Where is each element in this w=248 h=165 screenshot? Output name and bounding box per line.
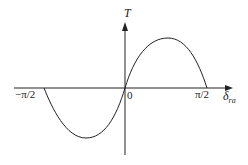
tick-right-label: π/2: [195, 89, 209, 100]
y-axis-label: T: [124, 7, 131, 19]
origin-label: 0: [127, 90, 133, 101]
y-axis-arrow-icon: [122, 22, 128, 31]
torque-angle-diagram: [0, 0, 248, 165]
x-axis-label-subscript: ra: [229, 96, 236, 105]
x-axis-label: δra: [223, 90, 236, 105]
tick-left-label: −π/2: [15, 89, 35, 100]
